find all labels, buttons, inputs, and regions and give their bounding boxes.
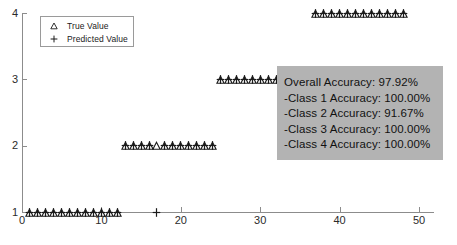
predicted-value-marker (367, 8, 376, 19)
y-axis-line (22, 13, 23, 213)
x-tick-label: 30 (249, 215, 271, 226)
predicted-value-marker (256, 74, 265, 85)
predicted-value-marker (216, 74, 225, 85)
predicted-value-marker (359, 8, 368, 19)
true-value-marker (216, 74, 225, 85)
predicted-value-marker (375, 8, 384, 19)
true-value-marker (168, 140, 177, 151)
true-value-marker (383, 8, 392, 19)
true-value-marker (192, 140, 201, 151)
predicted-value-marker (224, 74, 233, 85)
accuracy-line-overall: Overall Accuracy: 97.92% (284, 75, 443, 91)
true-value-marker (343, 8, 352, 19)
y-tick (22, 212, 27, 213)
true-value-marker (152, 140, 161, 151)
predicted-value-marker (343, 8, 352, 19)
predicted-value-marker (351, 8, 360, 19)
true-value-marker (240, 74, 249, 85)
predicted-value-marker (168, 140, 177, 151)
true-value-marker (160, 140, 169, 151)
true-value-marker (311, 8, 320, 19)
predicted-value-marker (319, 8, 328, 19)
y-tick-label: 2 (4, 140, 18, 151)
legend-item-true-value: True Value (41, 19, 133, 33)
classification-result-plot: 1234 01020304050 True Value Predicted Va… (0, 0, 457, 245)
true-value-marker (256, 74, 265, 85)
true-value-marker (335, 8, 344, 19)
predicted-value-marker (232, 74, 241, 85)
true-value-marker (121, 140, 130, 151)
x-tick-label: 10 (90, 215, 112, 226)
predicted-value-marker (264, 74, 273, 85)
predicted-value-marker (399, 8, 408, 19)
predicted-value-marker (200, 140, 209, 151)
x-tick-label: 20 (170, 215, 192, 226)
y-tick (22, 79, 27, 80)
y-tick (22, 146, 27, 147)
true-value-marker (391, 8, 400, 19)
y-tick (22, 13, 27, 14)
x-tick (22, 207, 23, 212)
x-tick (419, 207, 420, 212)
legend-item-predicted-value: Predicted Value (41, 32, 133, 46)
predicted-value-marker (184, 140, 193, 151)
true-value-marker (359, 8, 368, 19)
legend-label-predicted-value: Predicted Value (67, 34, 128, 44)
true-value-marker (200, 140, 209, 151)
predicted-value-marker (145, 140, 154, 151)
predicted-value-marker (240, 74, 249, 85)
x-tick (260, 207, 261, 212)
x-tick (101, 207, 102, 212)
x-tick (340, 207, 341, 212)
x-axis-line (22, 212, 434, 213)
predicted-value-marker (176, 140, 185, 151)
true-value-marker (129, 140, 138, 151)
predicted-value-marker (391, 8, 400, 19)
predicted-value-marker (160, 140, 169, 151)
y-tick-label: 3 (4, 74, 18, 85)
true-value-marker (224, 74, 233, 85)
predicted-value-marker (121, 140, 130, 151)
true-value-marker (248, 74, 257, 85)
accuracy-line-class-3: -Class 3 Accuracy: 100.00% (284, 122, 443, 138)
legend-label-true-value: True Value (67, 21, 109, 31)
predicted-value-marker (137, 140, 146, 151)
accuracy-summary-box: Overall Accuracy: 97.92% -Class 1 Accura… (277, 66, 443, 160)
true-value-marker (264, 74, 273, 85)
true-value-marker (375, 8, 384, 19)
predicted-value-marker (129, 140, 138, 151)
true-value-marker (351, 8, 360, 19)
predicted-value-marker (327, 8, 336, 19)
predicted-value-marker (383, 8, 392, 19)
accuracy-line-class-2: -Class 2 Accuracy: 91.67% (284, 106, 443, 122)
true-value-marker (208, 140, 217, 151)
x-tick-label: 50 (408, 215, 430, 226)
x-tick-label: 40 (329, 215, 351, 226)
true-value-marker (232, 74, 241, 85)
true-value-marker (176, 140, 185, 151)
predicted-value-marker (248, 74, 257, 85)
true-value-marker (184, 140, 193, 151)
true-value-marker (399, 8, 408, 19)
accuracy-line-class-1: -Class 1 Accuracy: 100.00% (284, 91, 443, 107)
true-value-marker (319, 8, 328, 19)
true-value-marker (145, 140, 154, 151)
predicted-value-marker (311, 8, 320, 19)
predicted-value-marker (335, 8, 344, 19)
accuracy-line-class-4: -Class 4 Accuracy: 100.00% (284, 137, 443, 153)
x-tick-label: 0 (11, 215, 33, 226)
predicted-value-marker (192, 140, 201, 151)
true-value-marker (327, 8, 336, 19)
true-value-marker (137, 140, 146, 151)
true-value-marker (367, 8, 376, 19)
chart-legend: True Value Predicted Value (40, 16, 134, 47)
x-tick (181, 207, 182, 212)
triangle-up-open-icon (41, 22, 67, 30)
plus-icon (41, 35, 67, 43)
y-tick-label: 4 (4, 8, 18, 19)
predicted-value-marker (208, 140, 217, 151)
